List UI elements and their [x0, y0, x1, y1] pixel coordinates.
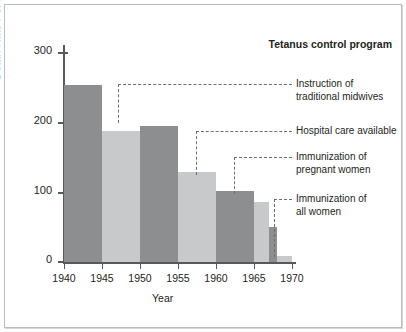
bar-1965-1967: [254, 202, 269, 262]
x-axis-title: Year: [152, 292, 173, 304]
bar-1960-1965: [216, 191, 254, 262]
annotation-immunization-pregnant: Immunization of pregnant women: [296, 151, 371, 176]
x-tick-label-1945: 1945: [90, 272, 113, 284]
x-tick-label-1970: 1970: [280, 272, 303, 284]
y-tick-label-0: 0: [46, 253, 52, 265]
x-tick-1960: [216, 262, 217, 269]
x-tick-label-1965: 1965: [242, 272, 265, 284]
chart-figure: Tetanus control program Death Rate Per 1…: [0, 0, 406, 332]
annotation-hospital-care: Hospital care available: [296, 125, 397, 138]
leader-line-v-3: [234, 157, 235, 194]
x-tick-1940: [64, 262, 65, 269]
annotation-instruction-midwives: Instruction of traditional midwives: [296, 78, 383, 103]
leader-line-h-1: [118, 84, 292, 85]
y-tick-label-200: 200: [34, 114, 52, 126]
bar-1968-1969: [277, 256, 292, 262]
leader-line-h-3: [234, 157, 292, 158]
y-axis-title: Death Rate Per 1,000 Live Births: [0, 0, 2, 80]
y-tick-label-300: 300: [34, 44, 52, 56]
x-tick-label-1955: 1955: [166, 272, 189, 284]
bar-1950-1955: [140, 126, 178, 262]
annotation-immunization-all: Immunization of all women: [296, 193, 367, 218]
x-tick-1955: [178, 262, 179, 269]
x-tick-1950: [140, 262, 141, 269]
leader-line-v-4: [274, 199, 275, 257]
y-tick-label-100: 100: [34, 184, 52, 196]
x-tick-label-1940: 1940: [52, 272, 75, 284]
leader-line-h-4: [274, 199, 292, 200]
x-tick-label-1950: 1950: [128, 272, 151, 284]
bar-1940-1945: [64, 85, 102, 262]
leader-line-v-2: [196, 131, 197, 175]
leader-line-h-2: [196, 131, 292, 132]
x-tick-1970: [292, 262, 293, 269]
x-tick-1945: [102, 262, 103, 269]
bar-1945-1950: [102, 131, 140, 262]
x-tick-label-1960: 1960: [204, 272, 227, 284]
x-axis-line: [63, 262, 296, 264]
bar-1967-1968: [269, 227, 277, 262]
plot-area: [63, 45, 295, 262]
x-tick-1965: [254, 262, 255, 269]
bar-1955-1960: [178, 172, 216, 262]
leader-line-v-1: [118, 84, 119, 123]
